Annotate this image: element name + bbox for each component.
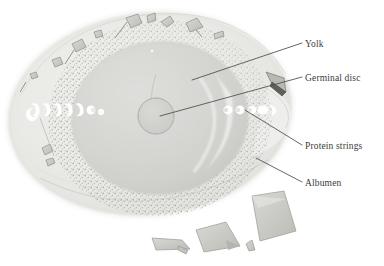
label-albumen-text: Albumen xyxy=(305,178,341,188)
label-yolk: Yolk xyxy=(305,40,324,50)
label-yolk-text: Yolk xyxy=(305,39,324,49)
diagram-artwork xyxy=(0,0,384,266)
label-germinal-disc: Germinal disc xyxy=(305,74,361,84)
germinal-disc-shape xyxy=(138,98,174,134)
label-germinal-disc-text: Germinal disc xyxy=(305,73,361,83)
egg-anatomy-diagram: Yolk Germinal disc Protein strings Album… xyxy=(0,0,384,266)
label-albumen: Albumen xyxy=(305,179,341,189)
label-protein-strings: Protein strings xyxy=(305,142,362,152)
label-protein-strings-text: Protein strings xyxy=(305,141,362,151)
